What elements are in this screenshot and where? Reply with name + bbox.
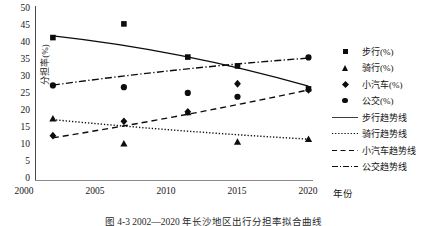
legend-label: 公交趋势线 — [358, 160, 407, 173]
data-point-marker — [185, 90, 191, 96]
data-point-marker — [50, 132, 57, 140]
square-marker-icon — [332, 49, 358, 54]
dashed-line-icon — [332, 150, 358, 151]
trendline — [53, 58, 309, 85]
legend-item-bus-trend: 公交趋势线 — [332, 160, 427, 174]
data-point-marker — [234, 80, 241, 88]
legend-item-cycling-trend: 骑行趋势线 — [332, 127, 427, 141]
legend-label: 骑行趋势线 — [358, 127, 407, 140]
legend-label: 步行(%) — [358, 45, 394, 58]
data-point-marker — [50, 35, 56, 41]
data-point-marker — [121, 21, 127, 27]
dotted-line-icon — [332, 133, 358, 134]
circle-marker-icon — [332, 98, 358, 104]
data-point-marker — [234, 138, 241, 144]
legend-item-car-trend: 小汽车趋势线 — [332, 143, 427, 157]
data-point-marker — [235, 63, 241, 69]
figure-caption: 图 4-3 2002—2020 年长沙地区出行分担率拟合曲线 — [0, 214, 427, 226]
trendline — [53, 36, 309, 86]
data-point-marker — [120, 140, 127, 146]
legend-item-cycling: 骑行(%) — [332, 61, 427, 75]
diamond-marker-icon — [332, 82, 358, 87]
legend-label: 小汽车趋势线 — [358, 144, 416, 157]
triangle-marker-icon — [332, 65, 358, 71]
data-point-marker — [185, 54, 191, 60]
data-point-marker — [234, 94, 240, 100]
legend-item-car: 小汽车(%) — [332, 77, 427, 91]
legend-label: 小汽车(%) — [358, 78, 403, 91]
data-point-marker — [121, 117, 128, 125]
solid-line-icon — [332, 117, 358, 118]
data-point-marker — [121, 84, 127, 90]
legend-label: 步行趋势线 — [358, 111, 407, 124]
legend-item-walking-trend: 步行趋势线 — [332, 110, 427, 124]
legend-item-walking: 步行(%) — [332, 44, 427, 58]
data-point-marker — [49, 115, 56, 121]
legend-item-bus: 公交(%) — [332, 94, 427, 108]
legend-label: 骑行(%) — [358, 61, 394, 74]
data-point-marker — [305, 54, 311, 60]
figure-container: 分担率(%) 50 45 40 35 30 25 20 15 10 5 0 20… — [0, 0, 427, 226]
legend: 步行(%) 骑行(%) 小汽车(%) 公交(%) 步行趋势线 骑行趋势线 — [332, 44, 427, 176]
data-point-marker — [50, 82, 56, 88]
legend-label: 公交(%) — [358, 94, 394, 107]
trendline — [53, 120, 309, 139]
dashdot-line-icon — [332, 166, 358, 167]
